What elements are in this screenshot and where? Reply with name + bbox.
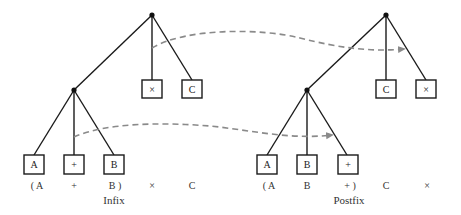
leaf-label: + [345,159,351,170]
postfix-tree: C × A B + ( A B + ) C × Postfix [257,12,436,206]
sequence-token: C [189,180,196,191]
dashed-arrow-plus [74,124,332,137]
infix-tree: × C A + B ( A + B ) × C Infix [24,12,202,206]
leaf-label: × [423,84,429,95]
sequence-token: C [383,180,390,191]
postfix-caption: Postfix [333,194,365,206]
sequence-token: ( A [31,180,44,192]
edge-sub-to-plus [307,90,347,155]
infix-caption: Infix [103,194,125,206]
subtree-node [304,87,309,92]
edge-root-to-c [152,15,192,80]
edge-root-to-subtree [307,15,386,90]
leaf-label: + [71,159,77,170]
sequence-token: × [424,180,430,191]
sequence-token: B ) [109,180,122,192]
edge-sub-to-a [267,90,307,155]
sequence-token: + [71,180,77,191]
leaf-label: B [304,159,311,170]
root-node [383,12,388,17]
edge-root-to-times [386,15,426,80]
edge-sub-to-a [34,90,74,155]
expression-tree-diagram: × C A + B ( A + B ) × C Infix C × A B + [0,0,461,215]
leaf-label: C [189,84,196,95]
subtree-node [71,87,76,92]
leaf-label: A [263,159,271,170]
edge-sub-to-b [74,90,114,155]
root-node [149,12,154,17]
sequence-token: B [304,180,311,191]
edge-root-to-subtree [74,15,152,90]
leaf-label: × [149,84,155,95]
sequence-token: + ) [344,180,355,192]
sequence-token: ( A [263,180,276,192]
leaf-label: B [111,159,118,170]
leaf-label: A [30,159,38,170]
sequence-token: × [149,180,155,191]
leaf-label: C [383,84,390,95]
